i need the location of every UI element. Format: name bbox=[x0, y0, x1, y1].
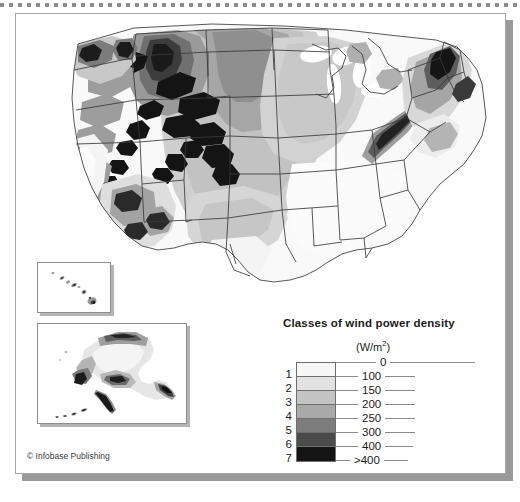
map-legend: Classes of wind power density (W/m2) 1 2… bbox=[268, 317, 493, 462]
legend-boundary-150: 150 bbox=[336, 384, 493, 396]
legend-boundary-400: 400 bbox=[336, 440, 493, 452]
legend-swatch-class-2 bbox=[297, 377, 335, 391]
legend-swatch-class-1 bbox=[297, 363, 335, 377]
legend-swatch-class-4 bbox=[297, 405, 335, 419]
page-perforation-edge bbox=[0, 3, 520, 7]
legend-units-suffix: ) bbox=[386, 341, 390, 353]
legend-boundary-0: 0 bbox=[336, 356, 493, 368]
figure-inner: Classes of wind power density (W/m2) 1 2… bbox=[16, 14, 505, 473]
legend-units: (W/m2) bbox=[356, 339, 390, 353]
legend-units-prefix: (W/m bbox=[356, 341, 382, 353]
legend-swatch-class-5 bbox=[297, 419, 335, 433]
legend-boundary-label: >400 bbox=[350, 454, 384, 466]
legend-boundary-100: 100 bbox=[336, 370, 493, 382]
legend-class-number-2: 2 bbox=[278, 382, 292, 394]
figure-frame: Classes of wind power density (W/m2) 1 2… bbox=[15, 13, 506, 474]
legend-boundary-label: 400 bbox=[358, 440, 385, 452]
legend-class-number-1: 1 bbox=[278, 368, 292, 380]
legend-swatch-class-3 bbox=[297, 391, 335, 405]
legend-boundary-label: 100 bbox=[358, 370, 385, 382]
legend-body: 1 2 3 4 5 6 7 bbox=[268, 360, 493, 462]
legend-title: Classes of wind power density bbox=[283, 317, 455, 329]
legend-class-number-7: 7 bbox=[278, 452, 292, 464]
legend-boundary-label: 250 bbox=[358, 412, 385, 424]
legend-class-number-5: 5 bbox=[278, 424, 292, 436]
legend-boundary-250: 250 bbox=[336, 412, 493, 424]
legend-swatch-stack bbox=[296, 362, 336, 462]
legend-class-number-3: 3 bbox=[278, 396, 292, 408]
alaska-inset-map bbox=[37, 323, 187, 424]
legend-class-number-6: 6 bbox=[278, 438, 292, 450]
legend-swatch-class-7 bbox=[297, 447, 335, 461]
legend-boundary-200: 200 bbox=[336, 398, 493, 410]
hawaii-inset-map bbox=[37, 262, 111, 313]
copyright-notice: © Infobase Publishing bbox=[27, 451, 110, 461]
legend-boundary-over-400: >400 bbox=[336, 454, 493, 466]
legend-boundary-label: 200 bbox=[358, 398, 385, 410]
legend-swatch-class-6 bbox=[297, 433, 335, 447]
legend-class-number-4: 4 bbox=[278, 410, 292, 422]
legend-boundary-300: 300 bbox=[336, 426, 493, 438]
legend-boundary-label: 300 bbox=[358, 426, 385, 438]
legend-boundary-label: 150 bbox=[358, 384, 385, 396]
legend-boundary-label: 0 bbox=[376, 356, 390, 368]
